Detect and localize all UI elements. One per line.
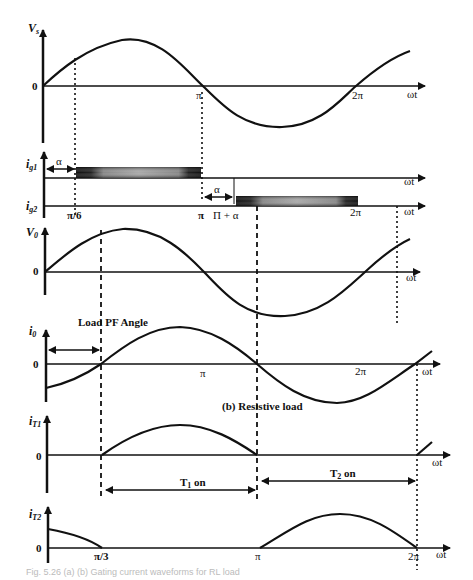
vs-zero: 0 [32, 80, 38, 92]
panel-it1: iT1 0 ωt T1 on T2 on [29, 414, 450, 493]
vs-wt: ωt [407, 88, 417, 100]
t2-on-label: T2 on [330, 467, 356, 481]
i0-label: i0 [29, 324, 36, 339]
it2-wave-start [48, 529, 102, 548]
it1-zero: 0 [36, 450, 42, 462]
load-pf-angle-label: Load PF Angle [78, 316, 148, 328]
v0-wt: ωt [406, 271, 416, 283]
resistive-load-label: (b) Resistive load [222, 400, 303, 413]
vs-tick-2pi: 2π [352, 89, 364, 101]
vs-wave [43, 39, 410, 127]
it2-wave [260, 514, 417, 548]
it2-label: iT2 [29, 507, 41, 522]
it2-wt: ωt [436, 548, 446, 560]
t1-on-label: T1 on [180, 476, 206, 490]
ig1-wt: ωt [404, 175, 414, 187]
tick-2pi: 2π [350, 206, 362, 218]
vs-label: Vs [28, 21, 39, 36]
alpha2-label: α [214, 183, 220, 195]
it2-tick-pi-3: π/3 [94, 550, 109, 562]
ig1-label: ig1 [26, 157, 37, 172]
v0-zero: 0 [33, 265, 39, 277]
tick-pi-6: π/6 [67, 209, 82, 221]
i0-zero: 0 [33, 358, 39, 370]
it2-tick-pi: π [255, 550, 261, 562]
waveform-diagram: Vs 0 π 2π ωt ig1 ig2 α α π/6 π Π + α 2π … [0, 0, 473, 580]
i0-tick-pi: π [200, 367, 206, 379]
panel-i0: i0 0 π 2π ωt Load PF Angle (b) Resistive… [29, 316, 440, 570]
v0-label: V0 [26, 225, 38, 240]
ig2-label: ig2 [26, 199, 37, 214]
panel-v0: V0 0 ωt [26, 225, 420, 500]
i0-wave [46, 327, 432, 403]
figure-caption: Fig. 5.26 (a) (b) Gating current wavefor… [26, 567, 240, 577]
tick-pi: π [198, 209, 204, 221]
it1-wave-next [417, 442, 432, 455]
it1-wt: ωt [432, 456, 442, 468]
i0-tick-2pi: 2π [355, 365, 367, 377]
it2-zero: 0 [36, 542, 42, 554]
it1-wave [102, 425, 257, 455]
panel-it2: iT2 0 π/3 π 2π ωt [29, 507, 450, 563]
i0-wt: ωt [422, 365, 432, 377]
alpha1-label: α [56, 155, 62, 167]
ig2-wt: ωt [404, 205, 414, 217]
it2-tick-2pi: 2π [408, 550, 420, 562]
it1-label: iT1 [29, 414, 41, 429]
panel-vs: Vs 0 π 2π ωt [28, 21, 425, 218]
vs-tick-pi: π [196, 89, 202, 101]
tick-pi-alpha: Π + α [213, 209, 239, 221]
